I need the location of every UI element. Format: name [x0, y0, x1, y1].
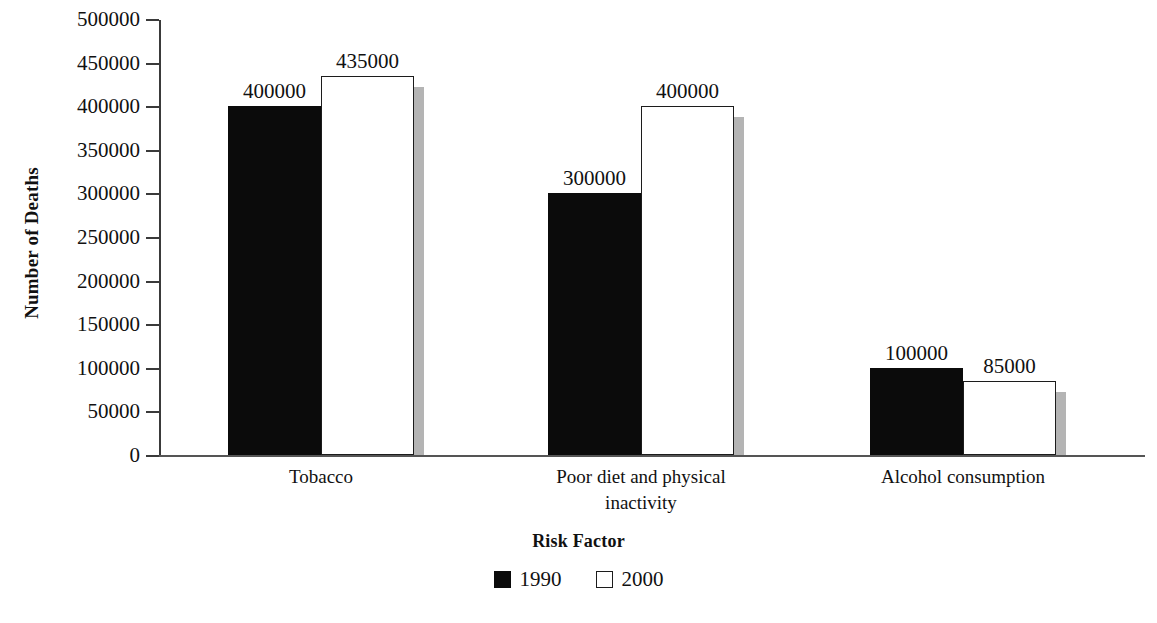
y-axis-tick-mark: [146, 237, 159, 239]
y-axis-tick-mark: [146, 368, 159, 370]
x-axis-line: [147, 455, 1145, 457]
x-axis-category-label: Tobacco: [171, 464, 471, 490]
bar-1990[interactable]: [870, 368, 963, 455]
y-axis-line: [159, 20, 161, 456]
y-axis-tick-mark: [146, 455, 159, 457]
y-axis-tick-mark: [146, 63, 159, 65]
y-axis-tick-mark: [146, 19, 159, 21]
bar-1990[interactable]: [228, 106, 321, 455]
bar-shadow: [734, 117, 744, 455]
bar-2000[interactable]: [321, 76, 414, 455]
x-axis-category-label: Poor diet and physical inactivity: [491, 464, 791, 516]
y-axis-tick-label: 250000: [77, 224, 140, 250]
bar-shadow: [1056, 392, 1066, 455]
y-axis-tick-label: 400000: [77, 93, 140, 119]
y-axis-title: Number of Deaths: [21, 133, 43, 353]
y-axis-tick-label: 500000: [77, 6, 140, 32]
legend-label: 1990: [520, 569, 562, 590]
y-axis-tick-label: 350000: [77, 137, 140, 163]
bar-value-label: 85000: [949, 354, 1070, 378]
y-axis-tick-mark: [146, 106, 159, 108]
legend-swatch-1990: [494, 571, 511, 588]
bar-1990[interactable]: [548, 193, 641, 455]
plot-area: 0500001000001500002000002500003000003500…: [159, 20, 1145, 456]
y-axis-tick-mark: [146, 193, 159, 195]
bar-value-label: 300000: [534, 166, 655, 190]
bar-2000[interactable]: [641, 106, 734, 455]
legend-swatch-2000: [596, 571, 613, 588]
y-axis-tick-label: 300000: [77, 180, 140, 206]
x-axis-category-label: Alcohol consumption: [813, 464, 1113, 490]
bar-value-label: 400000: [627, 79, 748, 103]
bar-2000[interactable]: [963, 381, 1056, 455]
legend-label: 2000: [622, 569, 664, 590]
y-axis-tick-label: 100000: [77, 355, 140, 381]
legend-item[interactable]: 1990: [494, 569, 562, 590]
y-axis-tick-mark: [146, 150, 159, 152]
x-axis-title: Risk Factor: [0, 531, 1157, 552]
y-axis-tick-label: 0: [130, 442, 141, 468]
y-axis-tick-label: 200000: [77, 268, 140, 294]
y-axis-tick-label: 450000: [77, 50, 140, 76]
bar-value-label: 435000: [307, 49, 428, 73]
chart-legend: 19902000: [0, 569, 1157, 590]
bar-chart-figure: Number of Deaths 05000010000015000020000…: [0, 0, 1157, 623]
y-axis-tick-mark: [146, 411, 159, 413]
y-axis-tick-mark: [146, 324, 159, 326]
y-axis-tick-label: 50000: [88, 398, 141, 424]
bar-shadow: [414, 87, 424, 455]
y-axis-tick-mark: [146, 281, 159, 283]
bar-value-label: 400000: [214, 79, 335, 103]
y-axis-tick-label: 150000: [77, 311, 140, 337]
legend-item[interactable]: 2000: [596, 569, 664, 590]
